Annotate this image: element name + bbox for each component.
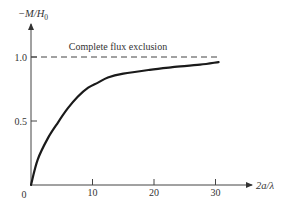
y-axis-title: −M/H0 bbox=[18, 8, 48, 22]
x-axis-title: 2a/λ bbox=[256, 180, 274, 191]
origin-label: 0 bbox=[22, 189, 27, 200]
complete-flux-exclusion-label: Complete flux exclusion bbox=[69, 41, 167, 52]
y-tick-label-0.5: 0.5 bbox=[15, 116, 28, 127]
x-tick-label-30: 30 bbox=[211, 187, 221, 198]
y-tick-label-1.0: 1.0 bbox=[15, 52, 28, 63]
x-tick-label-20: 20 bbox=[149, 187, 159, 198]
magnetization-curve bbox=[31, 62, 219, 185]
x-tick-label-10: 10 bbox=[88, 187, 98, 198]
chart: 1.0 0.5 0 10 20 30 −M/H0 2a/λ Complete f… bbox=[0, 0, 286, 207]
